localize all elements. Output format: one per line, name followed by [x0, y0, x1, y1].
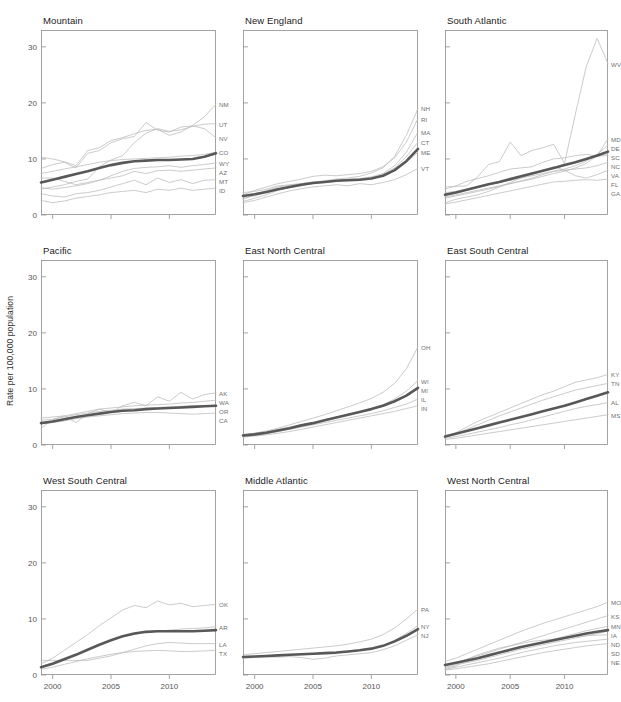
x-tick-label: 2010 [362, 682, 380, 691]
series-label-id: ID [219, 186, 225, 193]
panel-title: Mountain [43, 15, 83, 26]
y-tick-label: 30 [28, 42, 37, 51]
panel-pacific: Pacific0102030AKWAORCA [41, 260, 216, 445]
series-label-ut: UT [219, 120, 227, 127]
panel-title: South Atlantic [447, 15, 507, 26]
x-tick-label: 2010 [160, 682, 178, 691]
series-label-ma: MA [421, 129, 430, 136]
x-tick-label: 2000 [44, 682, 62, 691]
series-label-mo: MO [611, 599, 621, 606]
panel-east-south-central: East South CentralKYTNALMS [445, 260, 608, 445]
y-tick-label: 30 [28, 272, 37, 281]
series-label-co: CO [219, 149, 228, 156]
region-average-line [243, 629, 418, 657]
series-label-ca: CA [219, 416, 228, 423]
x-tick-label: 2010 [556, 682, 574, 691]
series-label-pa: PA [421, 605, 429, 612]
series-label-ia: IA [611, 632, 617, 639]
series-label-tx: TX [219, 649, 227, 656]
plot-area [41, 490, 216, 675]
state-line-mo [445, 602, 608, 661]
series-label-nh: NH [421, 105, 430, 112]
panel-south-atlantic: South AtlanticWVMDDESCNCVAFLGA [445, 30, 608, 215]
y-axis-title-text: Rate per 100,000 population [5, 296, 15, 406]
state-line-ia [445, 631, 608, 667]
series-label-sc: SC [611, 153, 620, 160]
panel-title: West North Central [447, 475, 529, 486]
y-axis-title: Rate per 100,000 population [2, 0, 18, 702]
state-line-nm [41, 104, 216, 166]
y-tick-label: 20 [28, 328, 37, 337]
series-label-ne: NE [611, 659, 620, 666]
series-label-me: ME [421, 149, 430, 156]
series-label-va: VA [611, 171, 619, 178]
panel-title: East North Central [245, 245, 325, 256]
x-tick-label: 2005 [501, 682, 519, 691]
x-tick-label: 2000 [447, 682, 465, 691]
series-label-nv: NV [219, 134, 228, 141]
plot-area [243, 490, 418, 675]
series-label-wa: WA [219, 398, 229, 405]
series-label-ok: OK [219, 601, 228, 608]
panel-title: New England [245, 15, 303, 26]
region-average-line [445, 392, 608, 436]
panel-title: Middle Atlantic [245, 475, 308, 486]
state-line-pa [243, 609, 418, 655]
region-average-line [445, 630, 608, 665]
state-line-sd [445, 639, 608, 669]
state-line-ne [445, 644, 608, 670]
series-label-mi: MI [421, 386, 428, 393]
state-line-fl [445, 167, 608, 203]
series-label-ga: GA [611, 189, 620, 196]
panel-west-south-central: West South Central0102030200020052010OKA… [41, 490, 216, 675]
series-label-nd: ND [611, 641, 620, 648]
series-label-ks: KS [611, 612, 619, 619]
series-label-or: OR [219, 407, 228, 414]
series-label-tn: TN [611, 380, 619, 387]
y-tick-label: 10 [28, 614, 37, 623]
panel-title: West South Central [43, 475, 127, 486]
series-label-in: IN [421, 405, 427, 412]
plot-area [445, 30, 608, 215]
series-label-wv: WV [611, 60, 621, 67]
panel-mountain: Mountain0102030NMUTNVCOWYAZMTID [41, 30, 216, 215]
state-line-ks [445, 616, 608, 665]
state-line-az [41, 168, 216, 189]
state-line-ms [445, 415, 608, 440]
series-label-mn: MN [611, 623, 621, 630]
series-label-wy: WY [219, 159, 229, 166]
x-tick-label: 2005 [102, 682, 120, 691]
y-tick-label: 30 [28, 502, 37, 511]
series-label-ri: RI [421, 115, 427, 122]
series-label-mt: MT [219, 177, 228, 184]
panel-east-north-central: East North CentralOHWIMIILIN [243, 260, 418, 445]
panel-frame [244, 31, 418, 215]
plot-area [41, 30, 216, 215]
state-line-mt [41, 178, 216, 197]
y-tick-label: 0 [33, 441, 37, 450]
series-label-vt: VT [421, 165, 429, 172]
state-line-id [41, 188, 216, 203]
series-label-oh: OH [421, 343, 430, 350]
series-label-ms: MS [611, 411, 620, 418]
series-label-md: MD [611, 135, 621, 142]
panel-title: Pacific [43, 245, 72, 256]
region-average-line [445, 152, 608, 195]
series-label-al: AL [611, 399, 619, 406]
panel-middle-atlantic: Middle Atlantic200020052010PANYNJ [243, 490, 418, 675]
series-label-ny: NY [421, 622, 430, 629]
plot-area [445, 490, 608, 675]
region-average-line [243, 149, 418, 196]
state-line-ga [445, 179, 608, 204]
panel-frame [42, 491, 216, 675]
state-line-al [445, 402, 608, 438]
series-label-la: LA [219, 640, 227, 647]
panel-west-north-central: West North Central200020052010MOKSMNIAND… [445, 490, 608, 675]
series-label-ct: CT [421, 139, 429, 146]
series-label-ak: AK [219, 389, 227, 396]
panel-frame [244, 261, 418, 445]
state-line-vt [243, 168, 418, 202]
plot-area [243, 260, 418, 445]
series-label-de: DE [611, 144, 620, 151]
